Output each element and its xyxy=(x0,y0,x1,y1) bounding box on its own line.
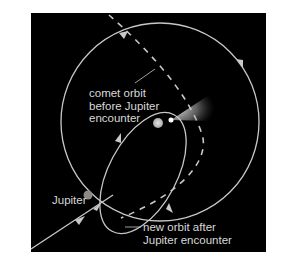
new-orbit-arrow-icon xyxy=(166,203,173,213)
label-line: Jupiter encounter xyxy=(143,234,232,247)
comet-label-leader xyxy=(135,69,155,83)
new-orbit-arrow-icon xyxy=(115,133,121,143)
orbit-diagram xyxy=(31,13,266,252)
label-line: before Jupiter xyxy=(89,100,159,113)
label-line: encounter xyxy=(89,112,159,125)
comet-tail xyxy=(171,95,215,121)
diagram-panel: comet orbit before Jupiter encounter Jup… xyxy=(31,13,266,252)
label-line: comet orbit xyxy=(89,87,159,100)
comet-orbit-before-label: comet orbit before Jupiter encounter xyxy=(89,87,159,125)
label-line: new orbit after xyxy=(143,221,232,234)
new-orbit-after-label: new orbit after Jupiter encounter xyxy=(143,221,232,246)
comet-head xyxy=(169,118,174,123)
jupiter-label: Jupiter xyxy=(52,194,87,207)
